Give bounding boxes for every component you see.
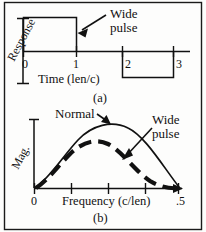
figure-canvas: Wide pulse Response 0 1 2 3 Time (len/c)… xyxy=(0,0,206,232)
panel-b-y-axis-label: Mag. xyxy=(8,143,32,172)
panel-b-wide-label-line1: Wide xyxy=(152,112,180,127)
wide-pulse-curve xyxy=(36,141,179,188)
panel-b: Normal Wide pulse Mag. 0 .5 Frequency (c… xyxy=(8,106,185,225)
panel-b-wide-arrow-line xyxy=(127,128,152,155)
panel-b-caption: (b) xyxy=(93,211,108,225)
panel-b-wide-label-line2: pulse xyxy=(152,126,180,141)
panel-b-normal-arrowhead xyxy=(101,115,111,125)
panel-a-x-axis-label: Time (len/c) xyxy=(38,72,100,86)
panel-b-tick-label-0: 0 xyxy=(31,194,37,208)
panel-a-annotation-line2: pulse xyxy=(110,20,138,35)
panel-b-tick-label-max: .5 xyxy=(176,194,185,208)
panel-a: Wide pulse Response 0 1 2 3 Time (len/c)… xyxy=(4,6,190,105)
panel-b-x-axis-label: Frequency (c/len) xyxy=(62,194,151,208)
panel-a-caption: (a) xyxy=(93,91,107,105)
panel-b-normal-label: Normal xyxy=(55,106,95,121)
panel-a-tick-label-1: 1 xyxy=(73,57,79,71)
panel-a-tick-label-2: 2 xyxy=(125,57,131,71)
panel-a-annotation-arrow-line xyxy=(82,15,106,30)
panel-a-tick-label-3: 3 xyxy=(176,57,182,71)
figure-container: Wide pulse Response 0 1 2 3 Time (len/c)… xyxy=(0,0,206,232)
panel-a-tick-label-0: 0 xyxy=(22,57,28,71)
panel-a-annotation-line1: Wide xyxy=(110,6,138,21)
